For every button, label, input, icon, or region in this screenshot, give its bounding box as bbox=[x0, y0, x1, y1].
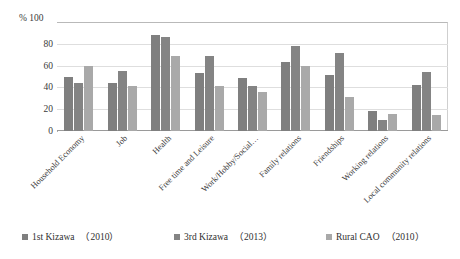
x-axis-label: Household Economy bbox=[28, 133, 86, 191]
bar bbox=[258, 92, 267, 131]
bar bbox=[345, 97, 354, 131]
bar bbox=[368, 111, 377, 131]
bar bbox=[422, 72, 431, 131]
bar bbox=[151, 35, 160, 131]
legend-label: Rural CAO bbox=[336, 232, 380, 243]
bar bbox=[84, 66, 93, 131]
bar-group bbox=[361, 22, 404, 131]
bar bbox=[325, 75, 334, 131]
bar bbox=[432, 115, 441, 131]
bar bbox=[215, 86, 224, 131]
legend-year: （2010） bbox=[386, 232, 425, 243]
y-tick-40: 40 bbox=[7, 82, 53, 92]
y-tick-20: 20 bbox=[7, 104, 53, 114]
bar bbox=[108, 83, 117, 131]
y-tick-80: 80 bbox=[7, 39, 53, 49]
legend-item[interactable]: 1st Kizawa（2010） bbox=[22, 232, 174, 243]
bar bbox=[195, 73, 204, 131]
legend-year: （2013） bbox=[234, 232, 273, 243]
bar-group bbox=[274, 22, 317, 131]
plot-area bbox=[57, 22, 448, 131]
bar bbox=[301, 66, 310, 131]
legend-swatch-icon bbox=[174, 234, 180, 240]
bar-group bbox=[318, 22, 361, 131]
bar-group bbox=[405, 22, 448, 131]
bar bbox=[335, 53, 344, 131]
legend-swatch-icon bbox=[326, 234, 332, 240]
bar bbox=[64, 77, 73, 132]
bar bbox=[291, 46, 300, 131]
bar-group bbox=[144, 22, 187, 131]
legend-label: 1st Kizawa bbox=[32, 232, 74, 243]
bar-groups bbox=[57, 22, 448, 131]
bar-group bbox=[187, 22, 230, 131]
bar bbox=[161, 37, 170, 131]
x-axis-labels: Household EconomyJobHealthFree time and … bbox=[57, 133, 448, 221]
y-axis: 80 60 40 20 0 bbox=[0, 22, 53, 131]
bar-chart: % 100 80 60 40 20 0 Household EconomyJob… bbox=[0, 0, 460, 259]
bar-group bbox=[231, 22, 274, 131]
bar bbox=[128, 86, 137, 131]
bar-group bbox=[57, 22, 100, 131]
bar bbox=[238, 78, 247, 131]
bar bbox=[378, 120, 387, 131]
legend-label: 3rd Kizawa bbox=[184, 232, 228, 243]
bar bbox=[118, 71, 127, 131]
bar bbox=[281, 62, 290, 131]
x-axis-label: Health bbox=[150, 133, 173, 156]
bar-group bbox=[100, 22, 143, 131]
chart-legend: 1st Kizawa（2010）3rd Kizawa（2013）Rural CA… bbox=[0, 228, 460, 246]
legend-item[interactable]: 3rd Kizawa（2013） bbox=[174, 232, 326, 243]
legend-swatch-icon bbox=[22, 234, 28, 240]
y-tick-0: 0 bbox=[7, 126, 53, 136]
legend-item[interactable]: Rural CAO（2010） bbox=[326, 232, 425, 243]
x-axis-label: Job bbox=[114, 133, 129, 148]
bar bbox=[171, 56, 180, 131]
bar bbox=[205, 56, 214, 131]
x-axis-label: Friendships bbox=[311, 133, 346, 168]
x-axis-label: Family relations bbox=[257, 133, 303, 179]
bar bbox=[412, 85, 421, 131]
bar bbox=[388, 114, 397, 131]
legend-year: （2010） bbox=[80, 232, 119, 243]
bar bbox=[74, 83, 83, 131]
bar bbox=[248, 86, 257, 131]
y-tick-60: 60 bbox=[7, 61, 53, 71]
